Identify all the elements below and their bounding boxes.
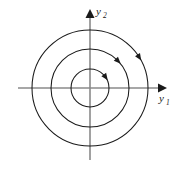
- vertical-axis-arrow-icon: [86, 9, 95, 18]
- vertical-axis: [86, 9, 95, 160]
- horizontal-axis-label: y 1: [158, 92, 170, 107]
- outer-orbit-direction-arrow-icon: [135, 53, 141, 60]
- horizontal-axis-label-main: y: [158, 92, 164, 104]
- phase-portrait-canvas: y 1 y 2: [0, 0, 179, 169]
- horizontal-axis: [18, 84, 167, 93]
- vertical-axis-label-subscript: 2: [103, 11, 107, 20]
- vertical-axis-label: y 2: [95, 5, 107, 20]
- phase-portrait-figure: y 1 y 2: [0, 0, 179, 169]
- vertical-axis-label-main: y: [95, 5, 101, 17]
- horizontal-axis-label-subscript: 1: [166, 98, 170, 107]
